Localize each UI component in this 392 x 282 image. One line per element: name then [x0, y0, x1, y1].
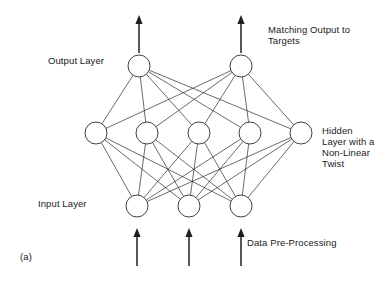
- matching-output-label-line2: Targets: [268, 35, 300, 47]
- edge-hidden-to-output: [106, 71, 231, 129]
- hidden-layer-label-line1: Hidden: [322, 125, 353, 137]
- input-arrow-2-head: [185, 228, 192, 237]
- figure-caption: (a): [20, 251, 32, 263]
- input-arrow-1-head: [133, 228, 140, 237]
- data-preprocessing-label: Data Pre-Processing: [247, 237, 337, 249]
- edge-input-to-hidden: [101, 143, 131, 197]
- node-hidden-2: [136, 122, 158, 144]
- edge-input-to-hidden: [156, 140, 233, 200]
- edge-hidden-to-output: [148, 72, 240, 128]
- input-layer-label: Input Layer: [38, 198, 87, 210]
- edge-input-to-hidden: [198, 139, 292, 200]
- hidden-layer-label-line4: Twist: [322, 158, 344, 170]
- node-output-2: [230, 55, 252, 77]
- node-input-3: [230, 195, 252, 217]
- node-hidden-3: [188, 122, 210, 144]
- edge-input-to-hidden: [204, 143, 235, 197]
- node-input-2: [178, 195, 200, 217]
- node-hidden-4: [239, 122, 261, 144]
- output-arrow-2-head: [237, 15, 244, 24]
- edge-hidden-to-output: [140, 77, 145, 122]
- output-arrow-1-head: [135, 15, 142, 24]
- matching-output-label-line1: Matching Output to: [268, 24, 350, 36]
- neural-network-figure: Output Layer Input Layer Matching Output…: [0, 0, 392, 282]
- hidden-layer-label-line2: Layer with a: [322, 136, 374, 148]
- input-arrow-3-head: [237, 228, 244, 237]
- edge-hidden-to-output: [242, 77, 248, 122]
- nodes-group: [85, 55, 312, 217]
- edge-input-to-hidden: [242, 144, 248, 195]
- node-input-1: [126, 195, 148, 217]
- edge-hidden-to-output: [149, 70, 291, 129]
- node-hidden-1: [85, 122, 107, 144]
- output-layer-label: Output Layer: [48, 55, 104, 67]
- hidden-layer-label-line3: Non-Linear: [322, 147, 370, 159]
- edge-hidden-to-output: [102, 75, 133, 123]
- edge-input-to-hidden: [248, 142, 294, 198]
- edge-input-to-hidden: [106, 138, 231, 201]
- edge-hidden-to-output: [248, 74, 293, 125]
- node-output-1: [128, 55, 150, 77]
- node-hidden-5: [290, 122, 312, 144]
